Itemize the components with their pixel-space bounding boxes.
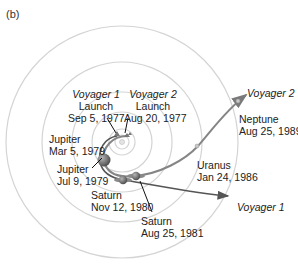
encounter-date: Nov 12, 1980: [91, 201, 153, 213]
voyager1-trajectory-label: Voyager 1: [237, 201, 284, 213]
voyager2-launch-label: Voyager 2 Launch Aug 20, 1977: [124, 88, 182, 124]
neptune-icon: [236, 99, 240, 103]
encounter-planet: Neptune: [239, 113, 298, 125]
voyager2-trajectory-label: Voyager 2: [247, 87, 294, 99]
voyager1-launch-craft: Voyager 1: [68, 88, 124, 100]
voyager2-launch-craft: Voyager 2: [124, 88, 182, 100]
uranus-encounter-label: Uranus Jan 24, 1986: [197, 159, 258, 183]
encounter-date: Jan 24, 1986: [197, 171, 258, 183]
saturn-encounter-1-label: Saturn Nov 12, 1980: [91, 189, 153, 213]
sun-icon: [120, 140, 125, 145]
encounter-date: Aug 25, 1989: [239, 125, 298, 137]
encounter-planet: Saturn: [91, 189, 153, 201]
encounter-date: Aug 25, 1981: [141, 227, 203, 239]
uranus-icon: [195, 144, 199, 148]
jupiter-encounter-2-label: Jupiter Jul 9, 1979: [57, 163, 108, 187]
neptune-encounter-label: Neptune Aug 25, 1989: [239, 113, 298, 137]
saturn-encounter-2-label: Saturn Aug 25, 1981: [141, 215, 203, 239]
voyager1-launch-event: Launch: [68, 100, 124, 112]
encounter-planet: Uranus: [197, 159, 258, 171]
encounter-planet: Jupiter: [49, 133, 105, 145]
voyager2-launch-event: Launch: [124, 100, 182, 112]
encounter-planet: Jupiter: [57, 163, 108, 175]
voyager1-launch-date: Sep 5, 1977: [68, 112, 124, 124]
panel-label: (b): [6, 8, 19, 20]
encounter-date: Mar 5, 1979: [49, 145, 105, 157]
voyager1-launch-label: Voyager 1 Launch Sep 5, 1977: [68, 88, 124, 124]
encounter-planet: Saturn: [141, 215, 203, 227]
voyager2-launch-date: Aug 20, 1977: [124, 112, 182, 124]
encounter-date: Jul 9, 1979: [57, 175, 108, 187]
jupiter-encounter-1-label: Jupiter Mar 5, 1979: [49, 133, 105, 157]
